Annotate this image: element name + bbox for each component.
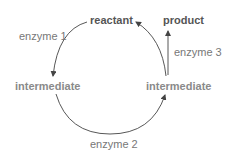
node-intermediate-right: intermediate bbox=[146, 80, 211, 93]
arrow-enzyme-2 bbox=[56, 94, 165, 134]
label-enzyme-1: enzyme 1 bbox=[19, 30, 67, 43]
node-product: product bbox=[163, 14, 204, 27]
arrow-regeneration bbox=[136, 22, 166, 76]
label-enzyme-3: enzyme 3 bbox=[174, 46, 222, 59]
node-intermediate-left: intermediate bbox=[15, 80, 80, 93]
node-reactant: reactant bbox=[90, 14, 133, 27]
label-enzyme-2: enzyme 2 bbox=[90, 138, 138, 151]
